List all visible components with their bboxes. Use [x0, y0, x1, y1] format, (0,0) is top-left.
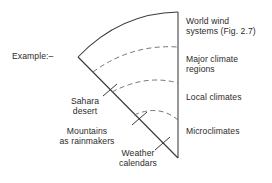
divider-arc-2: [112, 80, 178, 92]
clipped-caption-strip: [0, 176, 272, 183]
example-label-mountains-as-rainmakers: Mountains as rainmakers: [50, 126, 124, 147]
scale-label-microclimates: Microclimates: [186, 126, 240, 136]
scale-label-local-climates: Local climates: [186, 92, 242, 102]
example-caption: Example:–: [12, 51, 53, 61]
example-label-sahara-desert: Sahara desert: [62, 96, 108, 117]
upper-boundary-line: [78, 12, 178, 57]
divider-arc-3: [134, 111, 178, 120]
climate-scales-fan-diagram: Example:– World wind systems (Fig. 2.7) …: [0, 0, 272, 183]
scale-label-world-wind: World wind systems (Fig. 2.7): [186, 16, 256, 37]
divider-arc-1: [93, 47, 178, 72]
scale-label-major-climate: Major climate regions: [186, 54, 238, 75]
example-label-weather-calendars: Weather calendars: [110, 148, 166, 169]
